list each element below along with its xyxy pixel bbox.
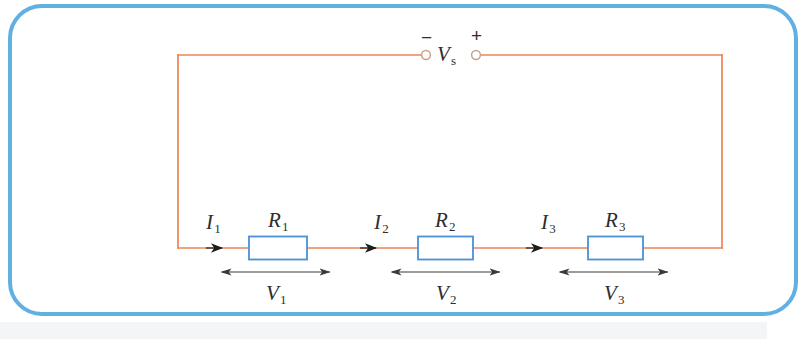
current-label-1: I1 [206, 212, 220, 233]
resistor-label-2-sub: 2 [449, 219, 456, 234]
resistor-body-2 [418, 237, 473, 260]
voltage-label-2-main: V [436, 281, 449, 305]
current-label-2: I2 [374, 212, 388, 233]
minus-sign: − [421, 28, 432, 47]
voltage-label-1: V1 [266, 283, 285, 304]
resistor-label-1: R1 [268, 210, 287, 231]
current-label-2-main: I [374, 210, 381, 234]
plus-sign: + [471, 26, 482, 45]
current-label-3-sub: 3 [549, 221, 556, 236]
resistor-label-1-sub: 1 [282, 219, 289, 234]
resistor-label-2: R2 [435, 210, 454, 231]
source-label-sub: s [451, 53, 456, 68]
voltage-label-3-sub: 3 [618, 292, 625, 307]
negative-terminal-icon [422, 51, 431, 60]
resistor-label-3-main: R [605, 208, 618, 232]
resistor-label-1-main: R [268, 208, 281, 232]
voltage-label-2: V2 [436, 283, 455, 304]
resistor-body-1 [249, 237, 307, 260]
current-label-3-main: I [541, 210, 548, 234]
voltage-label-3: V3 [604, 283, 623, 304]
source-label-main: V [437, 42, 450, 66]
voltage-label-1-sub: 1 [280, 292, 287, 307]
resistor-label-2-main: R [435, 208, 448, 232]
resistor-label-3: R3 [605, 210, 624, 231]
voltage-label-2-sub: 2 [450, 292, 457, 307]
resistor-body-3 [588, 237, 643, 260]
positive-terminal-icon [472, 51, 481, 60]
resistor-label-3-sub: 3 [619, 219, 626, 234]
current-label-1-main: I [206, 210, 213, 234]
current-label-3: I3 [541, 212, 555, 233]
voltage-label-3-main: V [604, 281, 617, 305]
current-label-1-sub: 1 [214, 221, 221, 236]
current-label-2-sub: 2 [382, 221, 389, 236]
source-label: Vs [437, 44, 455, 65]
voltage-label-1-main: V [266, 281, 279, 305]
